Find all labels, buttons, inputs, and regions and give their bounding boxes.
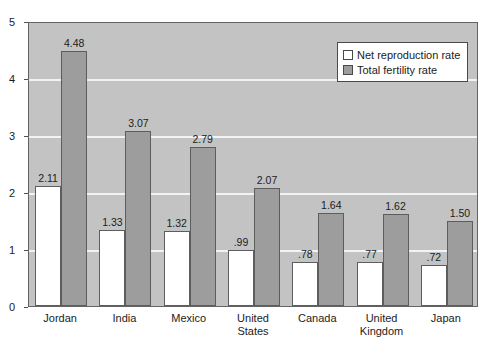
y-tick-label: 3 — [0, 130, 15, 142]
y-tick-mark — [24, 307, 28, 308]
bar-value-label: 3.07 — [128, 117, 148, 129]
bar-total-fertility-rate — [254, 188, 280, 306]
y-tick-mark — [24, 193, 28, 194]
legend-swatch-icon-total-fertility-rate — [343, 65, 353, 75]
bar-value-label: 4.48 — [64, 37, 84, 49]
bar-net-reproduction-rate — [35, 186, 61, 306]
x-axis-label: Mexico — [171, 312, 206, 325]
y-tick-label: 4 — [0, 73, 15, 85]
y-tick-label: 0 — [0, 301, 15, 313]
bar-value-label: .72 — [427, 251, 442, 263]
y-tick-mark — [24, 79, 28, 80]
bar-value-label: 1.33 — [102, 216, 122, 228]
bar-total-fertility-rate — [318, 213, 344, 306]
legend-item-total-fertility-rate: Total fertility rate — [343, 62, 460, 77]
bar-net-reproduction-rate — [99, 230, 125, 306]
bar-value-label: 1.50 — [450, 207, 470, 219]
bar-value-label: .78 — [298, 248, 313, 260]
y-tick-mark — [24, 136, 28, 137]
bar-net-reproduction-rate — [228, 250, 254, 306]
bar-total-fertility-rate — [447, 221, 473, 307]
bar-value-label: 1.64 — [321, 199, 341, 211]
chart-legend: Net reproduction rate Total fertility ra… — [337, 42, 468, 82]
bar-net-reproduction-rate — [292, 262, 318, 306]
y-tick-mark — [24, 250, 28, 251]
bar-value-label: 2.07 — [257, 174, 277, 186]
gridline — [29, 136, 477, 138]
bar-total-fertility-rate — [190, 147, 216, 306]
bar-value-label: 2.79 — [192, 133, 212, 145]
x-axis-label: Canada — [298, 312, 337, 325]
y-tick-label: 5 — [0, 16, 15, 28]
x-axis-label: Jordan — [43, 312, 77, 325]
legend-item-net-reproduction-rate: Net reproduction rate — [343, 47, 460, 62]
x-axis-label: India — [112, 312, 136, 325]
legend-label-net-reproduction-rate: Net reproduction rate — [357, 49, 460, 61]
y-tick-mark — [24, 22, 28, 23]
bar-total-fertility-rate — [61, 51, 87, 306]
bar-total-fertility-rate — [125, 131, 151, 306]
legend-label-total-fertility-rate: Total fertility rate — [357, 64, 437, 76]
bar-value-label: 1.32 — [166, 217, 186, 229]
y-tick-label: 1 — [0, 244, 15, 256]
bar-net-reproduction-rate — [164, 231, 190, 306]
x-axis-label: Japan — [431, 312, 461, 325]
bar-value-label: .77 — [362, 248, 377, 260]
legend-swatch-icon-net-reproduction-rate — [343, 50, 353, 60]
bar-net-reproduction-rate — [357, 262, 383, 306]
bar-value-label: 1.62 — [385, 200, 405, 212]
bar-value-label: .99 — [234, 236, 249, 248]
gridline — [29, 193, 477, 195]
grouped-bar-chart: 2.114.481.333.071.322.79.992.07.781.64.7… — [0, 0, 499, 354]
bar-value-label: 2.11 — [38, 172, 58, 184]
bar-total-fertility-rate — [383, 214, 409, 306]
y-tick-label: 2 — [0, 187, 15, 199]
bar-net-reproduction-rate — [421, 265, 447, 306]
x-axis-label: United States — [237, 312, 269, 338]
x-axis-label: United Kingdom — [360, 312, 403, 338]
